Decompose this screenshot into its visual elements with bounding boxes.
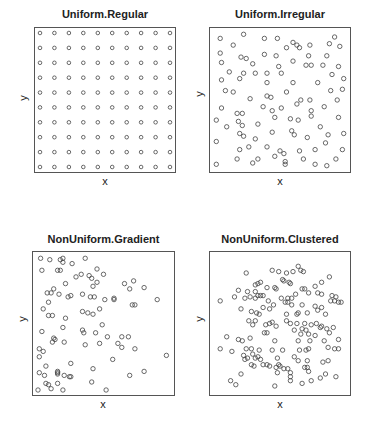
data-point <box>274 324 278 328</box>
data-point <box>245 356 249 360</box>
data-point <box>319 305 323 309</box>
data-point <box>275 356 279 360</box>
data-point <box>284 271 288 275</box>
data-point <box>249 347 253 351</box>
data-point <box>253 296 257 300</box>
data-point <box>225 335 229 339</box>
data-point <box>261 305 265 309</box>
data-point <box>306 347 310 351</box>
data-point <box>321 360 325 364</box>
data-point <box>291 269 295 273</box>
data-point <box>251 352 255 356</box>
data-point <box>314 321 318 325</box>
data-point <box>309 379 313 383</box>
data-point <box>218 299 222 303</box>
data-point <box>301 269 305 273</box>
data-point <box>236 288 240 292</box>
x-axis-label: x <box>270 398 290 410</box>
data-point <box>253 283 257 287</box>
data-point <box>265 285 269 289</box>
data-point <box>309 323 313 327</box>
data-point <box>266 299 270 303</box>
data-point <box>296 359 300 363</box>
data-point <box>273 384 277 388</box>
data-point <box>297 348 301 352</box>
data-point <box>258 280 262 284</box>
data-point <box>299 268 303 272</box>
data-point <box>249 309 253 313</box>
data-point <box>234 383 238 387</box>
data-point <box>253 356 257 360</box>
data-point <box>240 339 244 343</box>
data-point <box>280 348 284 352</box>
data-point <box>232 295 236 299</box>
data-point <box>251 323 255 327</box>
data-point <box>308 339 312 343</box>
data-point <box>270 348 274 352</box>
data-point <box>296 339 300 343</box>
data-point <box>243 357 247 361</box>
data-point <box>262 331 266 335</box>
data-point <box>270 320 274 324</box>
data-point <box>243 296 247 300</box>
data-point <box>303 321 307 325</box>
data-point <box>248 336 252 340</box>
data-point <box>299 332 303 336</box>
data-point <box>304 328 308 332</box>
data-point <box>323 372 327 376</box>
data-point <box>245 289 249 293</box>
data-point <box>293 292 297 296</box>
data-point <box>313 333 317 337</box>
data-point <box>267 307 271 311</box>
data-point <box>230 349 234 353</box>
data-point <box>275 371 279 375</box>
data-point <box>319 280 323 284</box>
data-point <box>284 319 288 323</box>
data-point <box>247 319 251 323</box>
data-point <box>244 271 248 275</box>
data-point <box>303 287 307 291</box>
data-point <box>322 339 326 343</box>
data-point <box>313 304 317 308</box>
data-point <box>327 275 331 279</box>
y-axis-label: y <box>193 313 205 325</box>
data-point <box>244 347 248 351</box>
data-point <box>258 293 262 297</box>
data-point <box>252 364 256 368</box>
data-point <box>336 337 340 341</box>
data-point <box>306 332 310 336</box>
data-point <box>306 291 310 295</box>
data-point <box>273 339 277 343</box>
data-point <box>257 312 261 316</box>
data-point <box>256 355 260 359</box>
data-point <box>316 308 320 312</box>
data-point <box>296 264 300 268</box>
data-point <box>254 311 258 315</box>
data-point <box>267 364 271 368</box>
data-point <box>325 327 329 331</box>
data-point <box>306 369 310 373</box>
data-point <box>239 372 243 376</box>
data-point <box>331 325 335 329</box>
data-point <box>258 357 262 361</box>
data-point <box>277 269 281 273</box>
data-point <box>271 303 275 307</box>
data-point <box>256 281 260 285</box>
data-point <box>326 359 330 363</box>
data-point <box>313 284 317 288</box>
data-point <box>253 319 257 323</box>
data-point <box>239 307 243 311</box>
data-point <box>267 321 271 325</box>
data-point <box>300 381 304 385</box>
data-point <box>270 268 274 272</box>
data-point <box>248 295 252 299</box>
data-point <box>305 311 309 315</box>
data-point <box>300 303 304 307</box>
data-point <box>323 312 327 316</box>
data-point <box>228 379 232 383</box>
data-point <box>290 303 294 307</box>
data-point <box>292 328 296 332</box>
data-point <box>334 375 338 379</box>
data-point <box>218 347 222 351</box>
data-point <box>284 312 288 316</box>
